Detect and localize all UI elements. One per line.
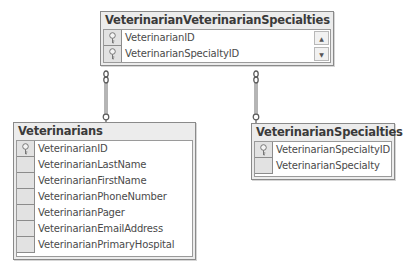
table-title: VeterinarianSpecialties: [252, 124, 394, 141]
column-row[interactable]: VeterinarianID: [104, 30, 313, 46]
column-name: VeterinarianID: [35, 141, 192, 157]
column-name: VeterinarianPrimaryHospital: [35, 237, 192, 253]
row-selector[interactable]: [17, 237, 35, 253]
column-row[interactable]: VeterinarianPhoneNumber: [17, 189, 192, 205]
row-selector[interactable]: [255, 142, 273, 158]
row-selector[interactable]: [17, 189, 35, 205]
column-row[interactable]: VeterinarianPrimaryHospital: [17, 237, 192, 253]
column-row[interactable]: VeterinarianID: [17, 141, 192, 157]
row-selector[interactable]: [104, 46, 122, 62]
column-name: VeterinarianPhoneNumber: [35, 189, 192, 205]
row-selector[interactable]: [17, 205, 35, 221]
primary-key-icon: [108, 48, 117, 60]
row-selector[interactable]: [17, 221, 35, 237]
row-selector[interactable]: [17, 157, 35, 173]
table-columns: VeterinarianID VeterinarianSpecialtyID ▲…: [103, 29, 331, 63]
vertical-scrollbar[interactable]: ▲ ▼: [314, 31, 329, 61]
column-row[interactable]: VeterinarianSpecialtyID: [255, 142, 391, 158]
primary-key-icon: [259, 144, 268, 156]
row-selector[interactable]: [17, 141, 35, 157]
column-row[interactable]: VeterinarianSpecialty: [255, 158, 391, 174]
relationship-line-veterinarians[interactable]: [99, 70, 113, 124]
row-selector[interactable]: [17, 173, 35, 189]
column-name: VeterinarianPager: [35, 205, 192, 221]
column-name: VeterinarianSpecialty: [273, 158, 391, 174]
table-title: VeterinarianVeterinarianSpecialties: [101, 12, 333, 29]
primary-key-icon: [108, 32, 117, 44]
table-veterinarian-veterinarian-specialties[interactable]: VeterinarianVeterinarianSpecialties Vete…: [100, 11, 334, 66]
chevron-down-icon: ▼: [319, 51, 324, 58]
row-selector[interactable]: [255, 158, 273, 174]
column-name: VeterinarianFirstName: [35, 173, 192, 189]
column-row[interactable]: VeterinarianSpecialtyID: [104, 46, 313, 62]
column-row[interactable]: VeterinarianLastName: [17, 157, 192, 173]
column-name: VeterinarianID: [122, 30, 313, 46]
chevron-up-icon: ▲: [319, 35, 324, 42]
table-columns: VeterinarianID VeterinarianLastName Vete…: [16, 140, 193, 257]
column-name: VeterinarianSpecialtyID: [273, 142, 391, 158]
relationship-line-specialties[interactable]: [249, 70, 263, 124]
table-veterinarian-specialties[interactable]: VeterinarianSpecialties VeterinarianSpec…: [251, 123, 395, 180]
table-columns: VeterinarianSpecialtyID VeterinarianSpec…: [254, 141, 392, 177]
table-veterinarians[interactable]: Veterinarians VeterinarianID Veterinaria…: [13, 122, 196, 260]
column-row[interactable]: VeterinarianEmailAddress: [17, 221, 192, 237]
row-selector[interactable]: [104, 30, 122, 46]
column-row[interactable]: VeterinarianFirstName: [17, 173, 192, 189]
column-name: VeterinarianEmailAddress: [35, 221, 192, 237]
column-name: VeterinarianSpecialtyID: [122, 46, 313, 62]
column-name: VeterinarianLastName: [35, 157, 192, 173]
primary-key-icon: [21, 143, 30, 155]
table-title: Veterinarians: [14, 123, 195, 140]
column-row[interactable]: VeterinarianPager: [17, 205, 192, 221]
scroll-down-button[interactable]: ▼: [314, 47, 329, 61]
scroll-up-button[interactable]: ▲: [314, 31, 329, 45]
